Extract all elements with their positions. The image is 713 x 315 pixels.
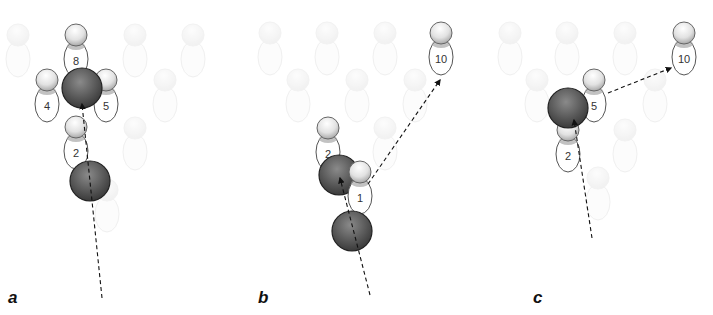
faded-pin: [403, 69, 427, 122]
panel-labels-layer: abc: [8, 288, 543, 307]
faded-pin: [153, 69, 177, 122]
panel-label-c: c: [533, 288, 543, 307]
faded-pin: [555, 22, 579, 75]
faded-pin: [286, 69, 310, 122]
pin-number: 2: [565, 150, 571, 162]
faded-pin: [123, 24, 147, 77]
panel-a: 8452: [35, 24, 118, 298]
panel-label-a: a: [8, 288, 17, 307]
bowling-ball: [62, 68, 102, 108]
faded-pin: [315, 22, 339, 75]
faded-pin: [373, 22, 397, 75]
bowling-pin-diagram: 845210211025 abc: [0, 0, 713, 315]
faded-pin: [258, 22, 282, 75]
pin-10: 10: [672, 22, 696, 75]
faded-pin: [373, 117, 397, 170]
pin-number: 10: [435, 53, 447, 65]
pin-2: 2: [64, 116, 88, 169]
faded-pin: [643, 69, 667, 122]
faded-pin: [613, 22, 637, 75]
faded-pin: [586, 167, 610, 220]
pin-1: 1: [348, 161, 372, 214]
faded-pin: [123, 117, 147, 170]
faded-pin: [6, 24, 30, 77]
pin-4: 4: [35, 69, 59, 122]
bowling-ball: [70, 161, 110, 201]
pin-number: 5: [103, 100, 109, 112]
pin-number: 8: [73, 55, 79, 67]
pin-number: 1: [357, 192, 363, 204]
bowling-ball: [548, 88, 588, 128]
pin-number: 2: [73, 147, 79, 159]
pin-number: 10: [678, 53, 690, 65]
pin-number: 5: [591, 100, 597, 112]
panel-label-b: b: [258, 288, 268, 307]
faded-pin: [613, 119, 637, 172]
faded-pin: [345, 69, 369, 122]
pin-number: 4: [44, 100, 50, 112]
pin-10: 10: [429, 22, 453, 75]
faded-pin: [181, 24, 205, 77]
bowling-ball: [332, 211, 372, 251]
faded-pin: [525, 69, 549, 122]
faded-pin: [498, 22, 522, 75]
